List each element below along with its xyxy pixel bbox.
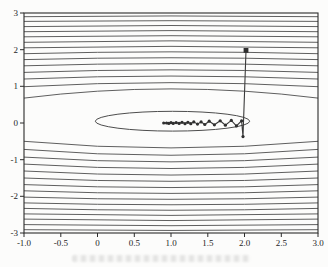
- contour-arc-top-10: [24, 31, 318, 32]
- start-point-marker: [244, 48, 249, 53]
- contour-arc-bottom-10: [24, 208, 318, 210]
- iterate-marker-14: [186, 121, 189, 124]
- figure-page: -1.0-0.500.51.01.52.02.53.0-3-2-10123: [0, 0, 328, 267]
- contour-arc-top-11: [24, 26, 318, 27]
- contour-arc-bottom-5: [24, 178, 318, 181]
- y-tick-label-2: -1: [11, 155, 19, 165]
- contour-arc-top-12: [24, 21, 318, 22]
- contour-arc-bottom-14: [24, 230, 318, 231]
- contour-arc-bottom-7: [24, 191, 318, 194]
- iterate-marker-3: [235, 124, 238, 127]
- contour-arc-bottom-0: [24, 141, 318, 148]
- y-tick-label-6: 3: [14, 8, 19, 18]
- iterate-marker-1: [241, 135, 244, 138]
- x-tick-label-3: 0.5: [129, 238, 141, 248]
- contour-arc-bottom-1: [24, 149, 318, 155]
- x-tick-label-7: 2.5: [276, 238, 288, 248]
- iterate-marker-5: [224, 124, 227, 127]
- contour-arc-bottom-12: [24, 219, 318, 220]
- iterate-marker-7: [213, 123, 216, 126]
- x-tick-label-2: 0: [95, 238, 100, 248]
- iterate-marker-8: [208, 120, 211, 123]
- contour-arc-bottom-6: [24, 185, 318, 188]
- contour-arc-top-6: [24, 52, 318, 54]
- contour-arc-bottom-11: [24, 214, 318, 216]
- contour-arc-bottom-9: [24, 203, 318, 205]
- contour-arc-top-8: [24, 41, 318, 42]
- iterate-marker-4: [230, 119, 233, 122]
- contour-plot: -1.0-0.500.51.01.52.02.53.0-3-2-10123: [0, 0, 328, 267]
- y-tick-label-0: -3: [11, 228, 19, 238]
- x-tick-label-5: 1.5: [202, 238, 214, 248]
- contour-arc-top-7: [24, 46, 318, 47]
- iterate-marker-6: [219, 119, 222, 122]
- contour-arc-top-3: [24, 70, 318, 73]
- iterate-marker-22: [165, 121, 168, 124]
- iterate-marker-23: [162, 121, 165, 124]
- contour-arc-bottom-4: [24, 171, 318, 175]
- iterate-marker-10: [200, 120, 203, 123]
- contour-arc-top-13: [24, 16, 318, 17]
- contour-arc-top-1: [24, 83, 318, 87]
- iterate-marker-17: [178, 122, 181, 125]
- y-tick-label-1: -2: [11, 191, 19, 201]
- y-tick-label-5: 2: [14, 45, 19, 55]
- contour-arc-top-0: [24, 89, 318, 98]
- iterate-marker-18: [175, 121, 178, 124]
- iterate-marker-9: [203, 123, 206, 126]
- contour-arc-bottom-8: [24, 197, 318, 199]
- contour-arc-bottom-13: [24, 225, 318, 226]
- contour-arc-top-2: [24, 76, 318, 79]
- contour-arc-bottom-2: [24, 157, 318, 162]
- contour-arc-top-9: [24, 36, 318, 37]
- x-tick-label-4: 1.0: [165, 238, 177, 248]
- x-tick-label-1: -0.5: [54, 238, 69, 248]
- contour-arc-bottom-3: [24, 164, 318, 168]
- iterate-marker-13: [189, 122, 192, 125]
- iterate-marker-12: [192, 120, 195, 123]
- contour-arc-top-4: [24, 64, 318, 66]
- iterate-marker-15: [183, 122, 186, 125]
- contour-ellipse: [95, 111, 249, 131]
- x-tick-label-8: 3.0: [312, 238, 324, 248]
- y-tick-label-3: 0: [14, 118, 19, 128]
- iterate-marker-2: [240, 119, 243, 122]
- iterate-marker-11: [196, 123, 199, 126]
- contour-arc-top-5: [24, 58, 318, 60]
- y-tick-label-4: 1: [14, 81, 19, 91]
- x-tick-label-6: 2.0: [239, 238, 251, 248]
- x-tick-label-0: -1.0: [17, 238, 32, 248]
- iterate-marker-16: [180, 121, 183, 124]
